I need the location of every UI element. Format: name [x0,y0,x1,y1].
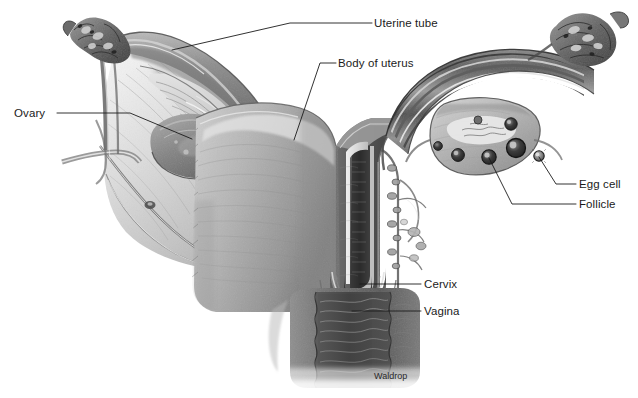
uterus-body [192,103,336,312]
anatomy-illustration [0,0,638,398]
label-ovary: Ovary [14,107,45,120]
figure-root: Uterine tube Body of uterus Ovary Egg ce… [0,0,638,398]
vagina [269,288,430,398]
uterine-wall-vessels [382,150,426,310]
follicle-mid [482,150,496,164]
egg-cell-leader [539,157,576,184]
label-egg-cell: Egg cell [579,178,621,191]
label-follicle: Follicle [579,198,616,211]
egg-cell [532,149,546,163]
follicle-left [452,149,465,162]
label-vagina: Vagina [424,305,460,318]
label-body-of-uterus: Body of uterus [338,57,414,70]
left-fimbriae [63,18,130,64]
label-cervix: Cervix [424,278,457,291]
label-uterine-tube: Uterine tube [374,17,438,30]
uterine-tube-leader [172,23,372,50]
artist-credit: Waldrop [374,371,407,381]
follicle-upper-right [505,118,517,130]
follicle-small-top [474,116,482,124]
follicle-small-left [434,142,443,151]
uterus-section [336,118,404,312]
follicle-large [507,139,526,158]
